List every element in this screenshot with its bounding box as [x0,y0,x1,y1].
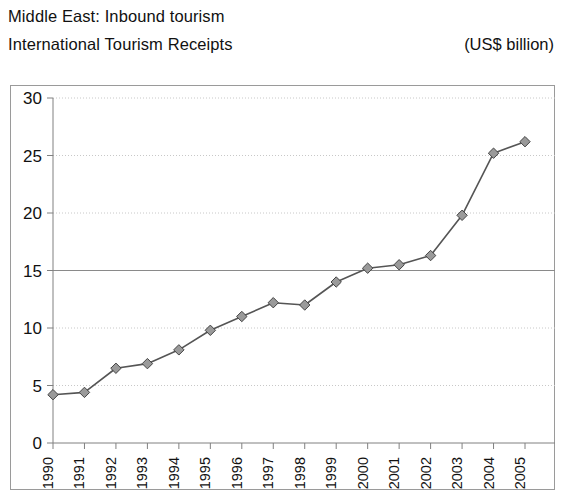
chart-units-label: (US$ billion) [464,35,554,54]
y-axis-label-25: 25 [23,147,42,166]
x-axis-label-1990: 1990 [40,457,56,489]
y-axis-label-0: 0 [33,434,42,453]
data-point-1994 [174,345,184,355]
x-axis-label-1991: 1991 [71,457,87,489]
y-axis-labels-group: 051015202530 [23,89,42,453]
data-point-2001 [394,260,404,270]
data-line-group [53,142,525,395]
data-point-2005 [520,137,530,147]
chart-title-line1: Middle East: Inbound tourism [8,2,554,30]
chart-title-line2: International Tourism Receipts [8,30,233,58]
x-axis-label-1993: 1993 [134,457,150,489]
x-axis-label-1998: 1998 [292,457,308,489]
y-axis-label-5: 5 [33,377,42,396]
x-axis-ticks-group [53,443,525,449]
x-axis-label-2005: 2005 [512,457,528,489]
x-axis-label-1994: 1994 [166,457,182,489]
x-axis-label-1997: 1997 [260,457,276,489]
y-axis-label-15: 15 [23,262,42,281]
data-point-2000 [362,263,372,273]
y-axis-label-10: 10 [23,319,42,338]
chart-figure: Middle East: Inbound tourism Internation… [0,0,562,496]
chart-title-block: Middle East: Inbound tourism Internation… [8,2,554,58]
x-axis-label-1992: 1992 [103,457,119,489]
x-axis-label-1996: 1996 [229,457,245,489]
y-axis-label-30: 30 [23,89,42,108]
line-chart-canvas: 051015202530 199019911992199319941995199… [10,85,555,490]
y-axis-label-20: 20 [23,204,42,223]
gridlines-group [53,98,555,386]
x-axis-label-1995: 1995 [197,457,213,489]
x-axis-label-2001: 2001 [386,457,402,489]
data-point-1993 [142,358,152,368]
series-line-receipts [53,142,525,395]
data-point-2004 [488,148,498,158]
x-axis-label-2002: 2002 [418,457,434,489]
x-axis-label-2003: 2003 [449,457,465,489]
data-markers-group [48,137,530,400]
chart-subtitle-row: International Tourism Receipts (US$ bill… [8,30,554,58]
x-axis-labels-group: 1990199119921993199419951996199719981999… [40,457,528,489]
x-axis-label-1999: 1999 [323,457,339,489]
x-axis-label-2000: 2000 [355,457,371,489]
data-point-1995 [205,325,215,335]
data-point-1996 [237,311,247,321]
x-axis-label-2004: 2004 [481,457,497,489]
data-point-1997 [268,298,278,308]
data-point-1990 [48,390,58,400]
